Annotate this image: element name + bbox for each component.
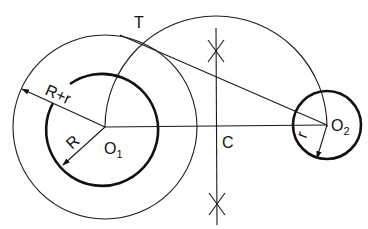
tangent-line (120, 35, 327, 125)
tangent-construction-diagram: T R+r R r O1 O2 C (0, 0, 368, 229)
radius-o2-small (317, 125, 327, 158)
label-t: T (134, 14, 144, 31)
perpendicular-bisector (216, 28, 217, 225)
label-c: C (222, 134, 234, 151)
label-r-plus-r: R+r (43, 81, 74, 107)
label-big-r: R (63, 132, 83, 152)
label-o2: O2 (331, 117, 350, 137)
label-o1: O1 (104, 140, 123, 160)
